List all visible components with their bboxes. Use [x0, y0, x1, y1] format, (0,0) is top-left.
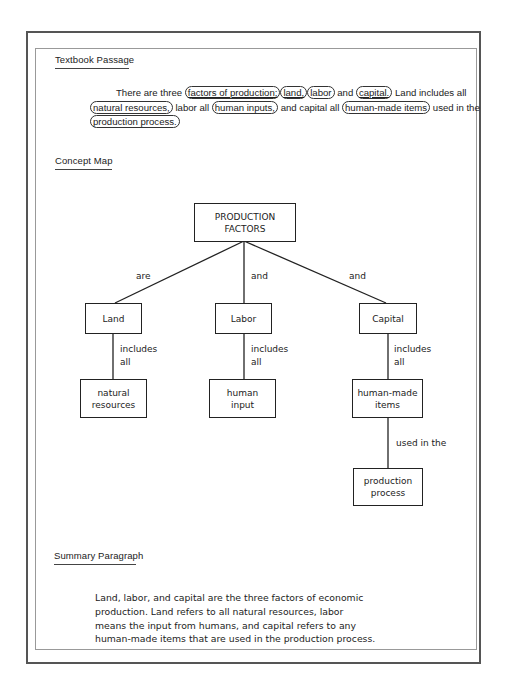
node-label: FACTORS [215, 223, 276, 235]
link-label-line: includes [120, 343, 157, 356]
node-human-made-items: human-madeitems [352, 379, 423, 418]
link-label-includes-all: includesall [120, 343, 157, 369]
node-label: human-made [357, 387, 417, 399]
link-label-line: all [251, 356, 288, 369]
link-label-line: includes [394, 343, 431, 356]
node-capital: Capital [359, 303, 417, 334]
node-label: natural [92, 387, 136, 399]
link-label-line: all [394, 356, 431, 369]
node-label: production [364, 475, 412, 487]
summary-line: Land, labor, and capital are the three f… [95, 591, 435, 605]
node-labor: Labor [215, 303, 272, 334]
summary-line: production. Land refers to all natural r… [95, 605, 435, 619]
node-production-factors: PRODUCTIONFACTORS [194, 203, 296, 242]
link-label-used-in-the: used in the [396, 437, 446, 450]
link-label-and: and [251, 270, 268, 283]
node-label: PRODUCTION [215, 211, 276, 223]
link-label-are: are [136, 270, 151, 283]
connector-land [115, 241, 244, 303]
node-production-process: productionprocess [353, 468, 423, 506]
summary-line: human-made items that are used in the pr… [95, 632, 435, 646]
node-label: items [357, 399, 417, 411]
link-label-includes-all: includesall [251, 343, 288, 369]
node-land: Land [85, 303, 142, 334]
node-label: resources [92, 399, 136, 411]
node-human-input: humaninput [209, 379, 276, 418]
node-label: human [227, 387, 258, 399]
link-label-and: and [349, 270, 366, 283]
summary-line: means the input from humans, and capital… [95, 619, 435, 633]
link-label-includes-all: includesall [394, 343, 431, 369]
node-label: process [364, 487, 412, 499]
node-natural-resources: naturalresources [80, 379, 147, 418]
summary-paragraph-text: Land, labor, and capital are the three f… [95, 591, 435, 646]
link-label-line: all [120, 356, 157, 369]
node-label: input [227, 399, 258, 411]
link-label-line: includes [251, 343, 288, 356]
summary-paragraph-title: Summary Paragraph [54, 550, 136, 565]
